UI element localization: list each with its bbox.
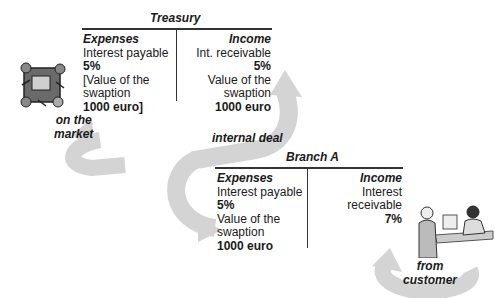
from-customer-line1: from bbox=[403, 259, 457, 273]
treasury-expenses: Expenses Interest payable 5% [Value of t… bbox=[83, 33, 175, 114]
branch-expenses-line1: Interest payable bbox=[217, 186, 307, 200]
trading-desk-clipart-icon bbox=[18, 60, 68, 110]
branch-expenses-line3: Value of the bbox=[217, 213, 307, 227]
on-the-market-line2: market bbox=[54, 127, 93, 141]
treasury-income-rate: 5% bbox=[178, 60, 271, 74]
branch-income-line1: Interest bbox=[310, 186, 402, 200]
branch-expenses-rate: 5% bbox=[217, 199, 307, 213]
treasury-header-line bbox=[82, 28, 272, 30]
treasury-title: Treasury bbox=[150, 11, 200, 25]
on-the-market-line1: on the bbox=[54, 113, 93, 127]
treasury-expenses-amount: 1000 euro] bbox=[83, 101, 175, 115]
treasury-income-line3: Value of the bbox=[178, 74, 271, 88]
branch-expenses-header: Expenses bbox=[217, 172, 307, 186]
treasury-expenses-line3: [Value of the bbox=[83, 74, 175, 88]
branch-income-rate: 7% bbox=[310, 213, 402, 227]
branch-income-line2: receivable bbox=[310, 199, 402, 213]
branch-income-header: Income bbox=[310, 172, 402, 186]
treasury-expenses-line1: Interest payable bbox=[83, 47, 175, 61]
treasury-income-line1: Int. receivable bbox=[178, 47, 271, 61]
branch-expenses: Expenses Interest payable 5% Value of th… bbox=[217, 172, 307, 253]
treasury-income: Income Int. receivable 5% Value of the s… bbox=[178, 33, 271, 114]
branch-expenses-line4: swaption bbox=[217, 226, 307, 240]
branch-expenses-amount: 1000 euro bbox=[217, 240, 307, 254]
branch-title: Branch A bbox=[286, 150, 339, 164]
branch-income: Income Interest receivable 7% bbox=[310, 172, 402, 226]
treasury-income-line4: swaption bbox=[178, 87, 271, 101]
treasury-expenses-line4: swaption bbox=[83, 87, 175, 101]
treasury-divider bbox=[176, 29, 177, 101]
treasury-income-header: Income bbox=[178, 33, 271, 47]
treasury-expenses-rate: 5% bbox=[83, 60, 175, 74]
customer-service-clipart-icon bbox=[415, 203, 495, 258]
branch-header-line bbox=[215, 167, 403, 169]
from-customer-line2: customer bbox=[403, 273, 457, 287]
from-customer-label: from customer bbox=[403, 259, 457, 287]
internal-deal-label: internal deal bbox=[212, 131, 283, 145]
branch-divider bbox=[307, 168, 308, 248]
treasury-income-amount: 1000 euro bbox=[178, 101, 271, 115]
on-the-market-label: on the market bbox=[54, 113, 93, 141]
treasury-expenses-header: Expenses bbox=[83, 33, 175, 47]
